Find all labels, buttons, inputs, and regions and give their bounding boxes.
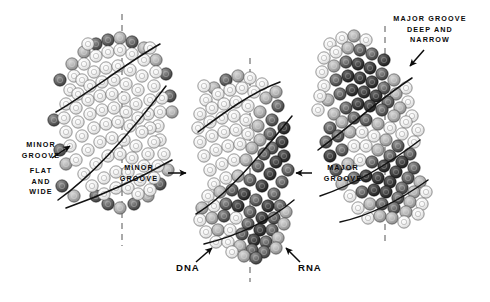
label-left-descriptor: FLAT AND WIDE <box>14 166 68 198</box>
label-left-descriptor-line2: AND <box>14 177 68 188</box>
label-left-descriptor-line1: FLAT <box>14 166 68 177</box>
label-center-minor-groove: MINOR GROOVE <box>112 163 166 184</box>
label-left-minor-groove-line2: GROOVE <box>14 151 68 162</box>
label-right-major-groove-line1: MAJOR GROOVE <box>378 14 482 25</box>
label-left-descriptor-line3: WIDE <box>14 187 68 198</box>
label-dna: DNA <box>176 262 200 274</box>
label-center-major-groove: MAJOR GROOVE <box>316 163 370 184</box>
label-right-major-groove-line2: DEEP AND <box>378 25 482 36</box>
label-center-minor-groove-line2: GROOVE <box>112 174 166 185</box>
label-center-major-groove-line1: MAJOR <box>316 163 370 174</box>
label-left-minor-groove-line1: MINOR <box>14 140 68 151</box>
molecular-figure: MINOR GROOVE FLAT AND WIDE MINOR GROOVE … <box>0 0 490 302</box>
label-left-minor-groove: MINOR GROOVE <box>14 140 68 161</box>
label-right-major-groove: MAJOR GROOVE DEEP AND NARROW <box>378 14 482 46</box>
label-rna: RNA <box>298 262 322 274</box>
label-center-minor-groove-line1: MINOR <box>112 163 166 174</box>
label-right-major-groove-line3: NARROW <box>378 35 482 46</box>
label-center-major-groove-line2: GROOVE <box>316 174 370 185</box>
